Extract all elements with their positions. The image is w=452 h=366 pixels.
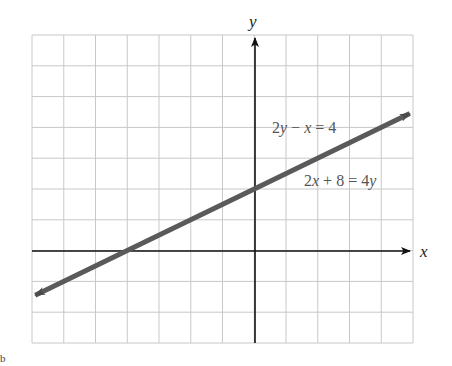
linear-equation-graph: y x 2y − x = 4 2x + 8 = 4y b	[0, 0, 452, 366]
equation-label-2: 2x + 8 = 4y	[304, 172, 377, 190]
axes	[32, 38, 410, 343]
grid-lines	[32, 35, 413, 343]
equation-label-1: 2y − x = 4	[272, 119, 336, 137]
coordinate-plane: y x 2y − x = 4 2x + 8 = 4y	[0, 0, 452, 366]
part-marker: b	[0, 352, 6, 364]
y-axis-label: y	[247, 12, 257, 31]
x-axis-label: x	[419, 242, 428, 261]
